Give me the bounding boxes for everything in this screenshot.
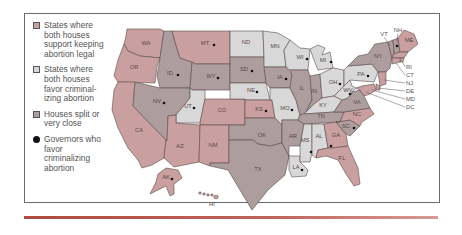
state-hi bbox=[211, 194, 214, 196]
state-label-pa: PA bbox=[357, 71, 364, 77]
governor-dot-icon bbox=[193, 107, 196, 110]
governor-dot-icon bbox=[306, 58, 309, 61]
callout-label-dc: DC bbox=[406, 104, 414, 110]
state-label-me: ME bbox=[405, 37, 414, 43]
state-label-or: OR bbox=[130, 64, 139, 70]
state-label-sc: SC bbox=[342, 123, 350, 129]
state-label-il: IL bbox=[300, 85, 306, 91]
governor-dot-icon bbox=[217, 77, 220, 80]
governor-dot-icon bbox=[310, 151, 313, 154]
state-label-wa: WA bbox=[141, 40, 150, 46]
state-label-fl: FL bbox=[339, 155, 347, 161]
state-label-ia: IA bbox=[277, 74, 283, 80]
state-label-mt: MT bbox=[201, 40, 210, 46]
governor-dot-icon bbox=[177, 74, 180, 77]
state-label-ak: AK bbox=[162, 174, 170, 180]
state-nj bbox=[378, 72, 386, 86]
callout-label-md: MD bbox=[406, 96, 415, 102]
governor-dot-icon bbox=[349, 93, 352, 96]
state-label-ks: KS bbox=[255, 106, 263, 112]
governor-dot-icon bbox=[353, 127, 356, 130]
callout-line bbox=[378, 88, 405, 91]
governor-dot-icon bbox=[330, 61, 333, 64]
governor-dot-icon bbox=[251, 70, 254, 73]
state-label-sd: SD bbox=[240, 66, 248, 72]
state-label-mi: MI bbox=[320, 57, 327, 63]
state-label-ms: MS bbox=[301, 137, 310, 143]
state-label-nm: NM bbox=[208, 142, 217, 148]
callout-label-vt: VT bbox=[380, 31, 388, 37]
state-label-hi: HI bbox=[209, 201, 215, 207]
state-de bbox=[376, 84, 380, 90]
state-label-wv: WV bbox=[343, 87, 352, 93]
governor-dot-icon bbox=[285, 78, 288, 81]
state-label-oh: OH bbox=[329, 79, 338, 85]
state-label-al: AL bbox=[315, 133, 323, 139]
callout-label-ri: RI bbox=[406, 64, 412, 70]
state-label-ca: CA bbox=[135, 127, 143, 133]
governor-dot-icon bbox=[291, 109, 294, 112]
state-label-ky: KY bbox=[319, 102, 327, 108]
state-label-nd: ND bbox=[242, 39, 250, 45]
state-label-ny: NY bbox=[374, 53, 382, 59]
governor-dot-icon bbox=[396, 45, 399, 48]
state-label-ga: GA bbox=[332, 132, 341, 138]
governor-dot-icon bbox=[367, 75, 370, 78]
state-label-nc: NC bbox=[353, 111, 361, 117]
state-label-ok: OK bbox=[258, 132, 267, 138]
governor-dot-icon bbox=[163, 102, 166, 105]
governor-dot-icon bbox=[213, 44, 216, 47]
state-hi bbox=[214, 195, 218, 199]
governor-dot-icon bbox=[265, 110, 268, 113]
state-hi bbox=[203, 193, 206, 195]
state-label-tn: TN bbox=[317, 113, 325, 119]
state-label-mo: MO bbox=[280, 105, 290, 111]
state-label-ne: NE bbox=[247, 87, 255, 93]
us-map: WAORCAIDNVMTWYUTCOAZNMNDSDNEKSOKTXMNIAMO… bbox=[0, 0, 462, 235]
state-label-nv: NV bbox=[153, 98, 161, 104]
bottom-rule bbox=[24, 216, 438, 219]
callout-line bbox=[366, 92, 405, 107]
callout-line bbox=[372, 90, 405, 99]
callout-line bbox=[384, 80, 405, 83]
state-label-la: LA bbox=[292, 164, 299, 170]
governor-dot-icon bbox=[171, 178, 174, 181]
callout-label-de: DE bbox=[406, 88, 414, 94]
state-fl bbox=[316, 146, 360, 186]
callout-label-nh: NH bbox=[394, 27, 402, 33]
state-label-tx: TX bbox=[254, 166, 262, 172]
state-label-va: VA bbox=[353, 99, 360, 105]
state-label-ar: AR bbox=[289, 133, 297, 139]
governor-dot-icon bbox=[330, 145, 333, 148]
state-label-wy: WY bbox=[206, 73, 215, 79]
state-hi bbox=[199, 192, 202, 194]
state-label-az: AZ bbox=[176, 143, 184, 149]
governor-dot-icon bbox=[339, 83, 342, 86]
state-label-ut: UT bbox=[184, 103, 192, 109]
state-hi bbox=[207, 194, 210, 196]
state-label-in: IN bbox=[311, 88, 317, 94]
callout-label-ct: CT bbox=[406, 72, 414, 78]
governor-dot-icon bbox=[256, 91, 259, 94]
governor-dot-icon bbox=[301, 169, 304, 172]
callout-line bbox=[402, 61, 405, 67]
state-ak bbox=[150, 168, 182, 196]
state-label-wi: WI bbox=[296, 54, 303, 60]
state-label-id: ID bbox=[167, 70, 173, 76]
callout-label-nj: NJ bbox=[406, 80, 413, 86]
state-label-co: CO bbox=[218, 107, 227, 113]
state-label-mn: MN bbox=[270, 43, 279, 49]
